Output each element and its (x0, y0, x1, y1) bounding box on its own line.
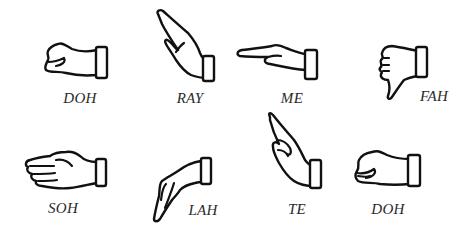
solfege-hand-signs-figure: DOH RAY ME FAH SOH (0, 0, 459, 233)
doh-high-fist-hand-icon (0, 0, 459, 233)
doh-high-label: DOH (371, 202, 404, 217)
